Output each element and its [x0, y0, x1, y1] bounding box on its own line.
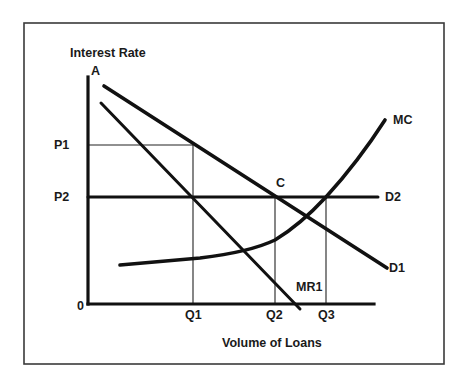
- x-axis-label: Volume of Loans: [222, 336, 322, 350]
- q1-label: Q1: [185, 308, 202, 322]
- d2-label: D2: [385, 190, 401, 204]
- d1-label: D1: [389, 261, 405, 275]
- origin-label: 0: [77, 299, 84, 313]
- q3-label: Q3: [318, 308, 335, 322]
- y-axis-label: Interest Rate: [70, 46, 146, 60]
- mc-label: MC: [393, 113, 412, 127]
- point-a-label: A: [91, 64, 100, 78]
- q2-label: Q2: [266, 308, 283, 322]
- point-c-label: C: [276, 176, 285, 190]
- p1-label: P1: [54, 138, 69, 152]
- mr1-curve: [101, 103, 300, 309]
- loan-market-diagram: Interest Rate A P1 P2 C MC D2 D1 MR1 0 Q…: [0, 0, 467, 384]
- p2-label: P2: [54, 190, 69, 204]
- mr1-label: MR1: [296, 280, 322, 294]
